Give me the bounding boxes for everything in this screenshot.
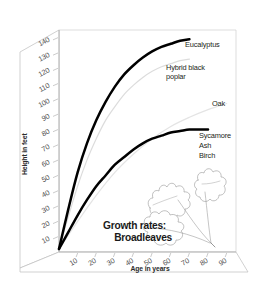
series-label-oak: Oak [212, 99, 226, 108]
series-label-hybrid-black-poplar-line1: Hybrid black [166, 63, 205, 72]
x-axis-title: Age in years [130, 265, 170, 273]
y-axis-title: Height in feet [21, 133, 29, 175]
series-label-birch: Birch [199, 151, 215, 160]
chart-canvas: 102030405060708090100110120130140 Height… [0, 0, 255, 299]
series-label-ash: Ash [199, 141, 211, 150]
series-label-eucalyptus: Eucalyptus [185, 40, 220, 49]
chart-title-line1: Growth rates: [103, 220, 166, 231]
series-label-sycamore: Sycamore [199, 131, 231, 140]
chart-title: Growth rates: Broadleaves [103, 220, 173, 243]
chart-title-line2: Broadleaves [114, 232, 172, 243]
growth-rates-chart: 102030405060708090100110120130140 Height… [0, 0, 255, 299]
series-label-hybrid-black-poplar-line2: poplar [166, 72, 186, 81]
